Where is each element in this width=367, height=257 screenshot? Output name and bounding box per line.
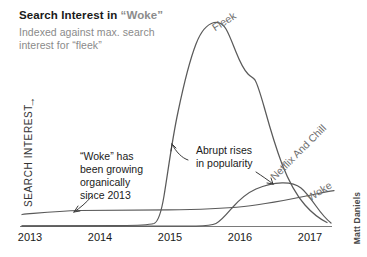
annotation-abrupt-rises: Abrupt rises in popularity — [196, 144, 253, 170]
credit-byline: Matt Daniels — [352, 192, 362, 244]
x-tick-2014: 2014 — [88, 231, 112, 243]
chart-container: Search Interest in “Woke” Indexed agains… — [0, 0, 367, 257]
x-tick-2015: 2015 — [158, 231, 182, 243]
x-tick-2017: 2017 — [298, 231, 322, 243]
x-tick-2013: 2013 — [18, 231, 42, 243]
series-line-woke — [22, 191, 334, 215]
annotation-woke-growth: “Woke” has been growing organically sinc… — [80, 150, 143, 202]
series-line-fleek — [22, 22, 327, 226]
series-line-netflix-and-chill — [22, 183, 331, 226]
x-tick-2016: 2016 — [228, 231, 252, 243]
annotation-arrowhead-woke — [74, 206, 80, 212]
